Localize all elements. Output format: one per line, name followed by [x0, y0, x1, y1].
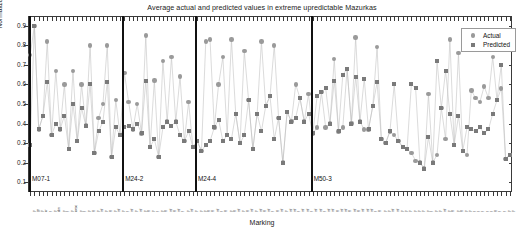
data-point-predicted: [277, 116, 281, 120]
legend-item-actual: Actual: [466, 31, 510, 40]
legend-label-actual: Actual: [480, 32, 501, 39]
data-point-predicted: [435, 59, 439, 63]
data-point-predicted: [67, 147, 71, 151]
data-point-predicted: [110, 155, 114, 159]
data-point-predicted: [384, 141, 388, 145]
data-point-actual: [216, 82, 220, 86]
data-point-predicted: [508, 153, 512, 157]
legend-item-predicted: Predicted: [466, 40, 510, 49]
data-point-predicted: [105, 80, 109, 84]
data-point-predicted: [174, 120, 178, 124]
data-point-predicted: [80, 106, 84, 110]
data-point-predicted: [298, 96, 302, 100]
group-label: M24-2: [125, 175, 143, 182]
data-point-predicted: [41, 114, 45, 118]
data-point-predicted: [332, 79, 336, 83]
data-point-predicted: [54, 122, 58, 126]
data-point-predicted: [148, 145, 152, 149]
data-point-actual: [169, 55, 173, 59]
data-point-predicted: [341, 73, 345, 77]
data-point-predicted: [495, 98, 499, 102]
group-label: M07-1: [32, 175, 50, 182]
data-point-predicted: [294, 116, 298, 120]
group-divider: [311, 16, 313, 192]
data-point-predicted: [499, 63, 503, 67]
data-point-predicted: [418, 161, 422, 165]
data-point-predicted: [289, 120, 293, 124]
data-point-actual: [186, 100, 190, 104]
data-point-predicted: [212, 125, 216, 129]
data-point-actual: [152, 78, 156, 82]
data-point-predicted: [367, 127, 371, 131]
data-point-predicted: [392, 82, 396, 86]
data-point-predicted: [448, 112, 452, 116]
group-label: M50-3: [314, 175, 332, 182]
data-point-predicted: [208, 139, 212, 143]
data-point-actual: [178, 74, 182, 78]
data-point-predicted: [268, 94, 272, 98]
data-point-predicted: [71, 102, 75, 106]
data-point-predicted: [144, 79, 148, 83]
data-point-predicted: [204, 143, 208, 147]
data-point-actual: [208, 37, 212, 41]
data-point-predicted: [199, 149, 203, 153]
data-point-predicted: [84, 124, 88, 128]
data-point-actual: [242, 49, 246, 53]
data-point-actual: [294, 82, 298, 86]
data-point-actual: [126, 100, 130, 104]
data-point-actual: [315, 125, 319, 129]
group-label: M24-4: [198, 175, 216, 182]
data-point-predicted: [221, 139, 225, 143]
data-point-predicted: [45, 80, 49, 84]
data-point-predicted: [272, 137, 276, 141]
data-point-actual: [486, 96, 490, 100]
data-point-predicted: [62, 114, 66, 118]
data-point-predicted: [37, 127, 41, 131]
chart-figure: Average actual and predicted values in e…: [0, 0, 524, 237]
data-point-predicted: [238, 141, 242, 145]
data-point-actual: [229, 37, 233, 41]
data-point-predicted: [178, 133, 182, 137]
data-point-predicted: [234, 112, 238, 116]
data-point-predicted: [362, 77, 366, 81]
data-point-predicted: [182, 139, 186, 143]
data-point-predicted: [452, 143, 456, 147]
data-point-predicted: [491, 112, 495, 116]
data-point-predicted: [405, 147, 409, 151]
data-point-predicted: [388, 129, 392, 133]
square-marker-icon: [466, 43, 480, 47]
data-point-actual: [105, 43, 109, 47]
data-point-predicted: [456, 114, 460, 118]
data-point-predicted: [92, 151, 96, 155]
data-point-actual: [473, 96, 477, 100]
data-point-actual: [409, 151, 413, 155]
data-point-predicted: [259, 129, 263, 133]
data-point-predicted: [482, 131, 486, 135]
data-point-predicted: [315, 94, 319, 98]
data-point-predicted: [32, 24, 36, 28]
data-point-predicted: [354, 75, 358, 79]
data-point-predicted: [319, 90, 323, 94]
data-point-predicted: [474, 129, 478, 133]
data-point-predicted: [229, 137, 233, 141]
data-point-predicted: [101, 120, 105, 124]
data-point-predicted: [264, 104, 268, 108]
data-point-actual: [88, 43, 92, 47]
data-point-predicted: [285, 110, 289, 114]
data-point-predicted: [371, 104, 375, 108]
data-point-predicted: [251, 147, 255, 151]
group-divider: [195, 16, 197, 192]
data-point-actual: [448, 37, 452, 41]
data-point-predicted: [478, 125, 482, 129]
data-point-predicted: [157, 155, 161, 159]
data-point-actual: [144, 33, 148, 37]
data-point-predicted: [337, 129, 341, 133]
data-point-actual: [79, 82, 83, 86]
data-point-predicted: [444, 69, 448, 73]
data-point-predicted: [88, 82, 92, 86]
data-point-predicted: [135, 122, 139, 126]
circle-marker-icon: [466, 33, 480, 37]
group-divider: [29, 16, 31, 192]
data-point-actual: [62, 82, 66, 86]
data-point-predicted: [131, 127, 135, 131]
